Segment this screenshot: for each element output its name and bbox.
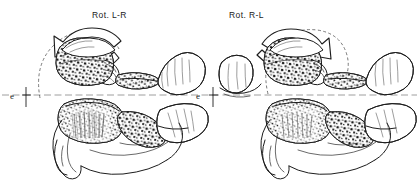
anatomical-figure: e Rot. L-R [0, 0, 419, 189]
reference-marker-label-left: e [10, 91, 14, 101]
reference-marker-label-right: e [196, 91, 200, 101]
panel-label-right: Rot. R-L [229, 10, 264, 20]
panel-label-left: Rot. L-R [92, 10, 127, 20]
figure-background [0, 0, 419, 189]
figure-canvas: e Rot. L-R [0, 0, 419, 189]
